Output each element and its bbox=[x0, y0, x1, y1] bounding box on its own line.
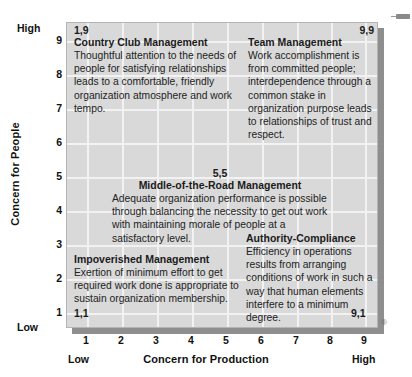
x-tick-5: 5 bbox=[218, 334, 234, 346]
quadrant-impoverished-management: Impoverished Management Exertion of mini… bbox=[74, 253, 239, 306]
plot-shadow-bottom bbox=[72, 328, 384, 334]
x-axis-title: Concern for Production bbox=[0, 353, 412, 365]
impoverished-description: Exertion of minimum effort to get requir… bbox=[74, 266, 239, 306]
country-club-coordinate: 1,9 bbox=[74, 24, 244, 36]
y-tick-6: 6 bbox=[48, 136, 62, 148]
authority-title: Authority-Compliance bbox=[246, 232, 376, 245]
country-club-description: Thoughtful attention to the needs of peo… bbox=[74, 49, 244, 115]
x-tick-3: 3 bbox=[148, 334, 164, 346]
plot-shadow-right bbox=[378, 28, 384, 334]
y-axis-title: Concern for People bbox=[9, 114, 21, 234]
y-tick-8: 8 bbox=[48, 68, 62, 80]
gridline-h-6 bbox=[67, 143, 377, 145]
quadrant-country-club-management: 1,9 Country Club Management Thoughtful a… bbox=[74, 24, 244, 115]
team-title: Team Management bbox=[248, 36, 374, 49]
x-tick-8: 8 bbox=[322, 334, 338, 346]
impoverished-coordinate: 1,1 bbox=[74, 307, 89, 319]
country-club-title: Country Club Management bbox=[74, 36, 244, 49]
x-tick-2: 2 bbox=[113, 334, 129, 346]
team-description: Work accomplishment is from committed pe… bbox=[248, 49, 374, 141]
y-tick-9: 9 bbox=[48, 34, 62, 46]
x-tick-7: 7 bbox=[288, 334, 304, 346]
x-tick-9: 9 bbox=[356, 334, 372, 346]
middle-coordinate: 5,5 bbox=[112, 167, 328, 179]
team-coordinate: 9,9 bbox=[248, 24, 374, 36]
impoverished-title: Impoverished Management bbox=[74, 253, 239, 266]
y-tick-1: 1 bbox=[48, 306, 62, 318]
registered-trademark-icon: ® bbox=[381, 318, 387, 327]
y-tick-2: 2 bbox=[48, 272, 62, 284]
x-tick-1: 1 bbox=[78, 334, 94, 346]
y-tick-5: 5 bbox=[48, 170, 62, 182]
y-tick-4: 4 bbox=[48, 204, 62, 216]
y-tick-7: 7 bbox=[48, 102, 62, 114]
y-axis-low-label: Low bbox=[17, 321, 38, 333]
y-axis-high-label: High bbox=[17, 22, 40, 34]
x-tick-6: 6 bbox=[253, 334, 269, 346]
corner-artifact-mark bbox=[396, 14, 410, 19]
x-tick-4: 4 bbox=[183, 334, 199, 346]
authority-coordinate: 9,1 bbox=[351, 307, 366, 319]
quadrant-team-management: 9,9 Team Management Work accomplishment … bbox=[248, 24, 374, 141]
y-tick-3: 3 bbox=[48, 238, 62, 250]
middle-title: Middle-of-the-Road Management bbox=[112, 179, 328, 192]
